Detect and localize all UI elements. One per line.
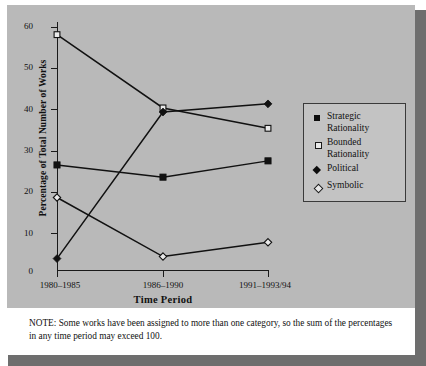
page-shadow-right [415, 10, 426, 366]
data-point-3-0 [53, 194, 60, 201]
legend-item-political: Political [310, 163, 400, 177]
open-diamond-icon [310, 180, 324, 194]
chart-panel: Percentage of Total Number of Works 60 5… [7, 5, 415, 308]
figure-page: Percentage of Total Number of Works 60 5… [0, 0, 426, 366]
data-point-1-0 [54, 32, 60, 38]
figure-note: NOTE: Some works have been assigned to m… [7, 308, 415, 355]
legend-label-bounded-rationality: Bounded Rationality [327, 137, 400, 160]
data-point-3-1 [159, 253, 166, 260]
legend-label-political: Political [327, 163, 359, 175]
data-point-0-0 [54, 162, 60, 168]
legend-label-strategic-rationality: Strategic Rationality [327, 111, 400, 134]
data-point-0-1 [160, 174, 166, 180]
plot-markers [53, 32, 272, 263]
data-point-0-2 [265, 158, 271, 164]
legend-item-strategic-rationality: Strategic Rationality [310, 111, 400, 134]
legend-label-symbolic: Symbolic [327, 180, 363, 192]
figure-note-text: NOTE: Some works have been assigned to m… [29, 317, 401, 343]
plot-lines [57, 35, 268, 259]
data-point-3-2 [264, 239, 271, 246]
filled-diamond-icon [310, 163, 324, 177]
legend-item-symbolic: Symbolic [310, 180, 400, 194]
chart-legend: Strategic Rationality Bounded Rationalit… [303, 103, 406, 202]
page-shadow-bottom [8, 355, 426, 366]
data-point-1-2 [265, 125, 271, 131]
filled-square-icon [310, 111, 324, 125]
open-square-icon [310, 137, 324, 151]
series-line-3 [57, 198, 268, 257]
legend-item-bounded-rationality: Bounded Rationality [310, 137, 400, 160]
series-line-2 [57, 104, 268, 259]
figure-card: Percentage of Total Number of Works 60 5… [7, 5, 415, 355]
data-point-2-2 [264, 100, 272, 108]
